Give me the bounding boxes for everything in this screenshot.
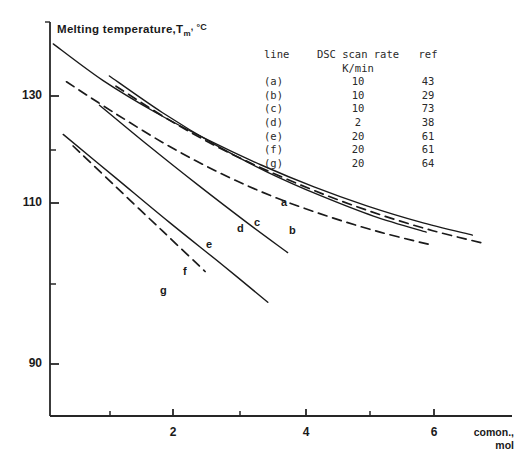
legend-cell-line: (b) [262, 89, 308, 103]
legend-row: (e)2061 [262, 130, 448, 144]
legend-cell-ref: 61 [408, 130, 448, 144]
legend-cell-line: (c) [262, 102, 308, 116]
legend-header-ref: ref [408, 48, 448, 62]
legend-cell-rate: 20 [308, 143, 408, 157]
curve-label-a: a [281, 196, 287, 208]
legend-table: line DSC scan rate ref K/min (a)1043(b)1… [262, 48, 448, 170]
legend-cell-line: (d) [262, 116, 308, 130]
legend-body: (a)1043(b)1029(c)1073(d)238(e)2061(f)206… [262, 75, 448, 170]
legend-cell-ref: 43 [408, 75, 448, 89]
y-axis-title-text: Melting temperature, [57, 23, 176, 35]
legend-row: (c)1073 [262, 102, 448, 116]
curve-label-c: c [254, 216, 260, 228]
figure-root: Melting temperature,Tm, °C 130 110 90 2 … [0, 0, 519, 475]
legend-cell-rate: 10 [308, 89, 408, 103]
curve-g [73, 146, 205, 272]
legend-row: (a)1043 [262, 75, 448, 89]
y-axis-title-unit: , °C [191, 22, 207, 32]
x-axis-label-line2: mol [452, 439, 514, 452]
legend-row: (d)238 [262, 116, 448, 130]
y-tick-label-90: 90 [12, 356, 42, 370]
legend-row: (g)2064 [262, 157, 448, 171]
y-axis-minor-ticks [50, 150, 56, 284]
legend-cell-ref: 64 [408, 157, 448, 171]
legend-cell-rate: 10 [308, 75, 408, 89]
x-axis-label-line1: comon., [452, 426, 514, 439]
x-tick-label-4: 4 [296, 425, 316, 439]
x-tick-label-2: 2 [163, 425, 183, 439]
legend-unit-row: K/min [262, 62, 448, 76]
legend-cell-rate: 20 [308, 130, 408, 144]
legend-cell-line: (a) [262, 75, 308, 89]
curve-label-b: b [289, 224, 296, 236]
legend-cell-line: (f) [262, 143, 308, 157]
legend-cell-line: (e) [262, 130, 308, 144]
legend-cell-ref: 38 [408, 116, 448, 130]
y-tick-label-110: 110 [12, 195, 42, 209]
legend-grid: line DSC scan rate ref K/min (a)1043(b)1… [262, 48, 448, 170]
legend-cell-line: (g) [262, 157, 308, 171]
legend-cell-ref: 29 [408, 89, 448, 103]
x-axis-label: comon., mol [452, 426, 514, 452]
legend-cell-rate: 2 [308, 116, 408, 130]
x-axis-major-ticks [173, 409, 434, 416]
legend-row: (b)1029 [262, 89, 448, 103]
y-tick-label-130: 130 [12, 88, 42, 102]
legend-header-rate: DSC scan rate [308, 48, 408, 62]
legend-row: (f)2061 [262, 143, 448, 157]
y-axis-title-subscript: m [183, 29, 190, 38]
legend-unit-spacer [262, 62, 308, 76]
x-tick-label-6: 6 [424, 425, 444, 439]
legend-unit-label: K/min [308, 62, 408, 76]
curve-label-f: f [183, 265, 187, 277]
curve-label-d: d [237, 222, 244, 234]
curve-label-e: e [206, 238, 212, 250]
curve-e [100, 105, 288, 252]
legend-unit-spacer2 [408, 62, 448, 76]
legend-header-line: line [262, 48, 308, 62]
legend-header-row: line DSC scan rate ref [262, 48, 448, 62]
legend-cell-ref: 73 [408, 102, 448, 116]
y-axis-major-ticks [50, 96, 59, 364]
legend-cell-ref: 61 [408, 143, 448, 157]
curve-label-g: g [160, 284, 167, 296]
legend-cell-rate: 20 [308, 157, 408, 171]
legend-cell-rate: 10 [308, 102, 408, 116]
y-axis-title: Melting temperature,Tm, °C [57, 22, 207, 38]
